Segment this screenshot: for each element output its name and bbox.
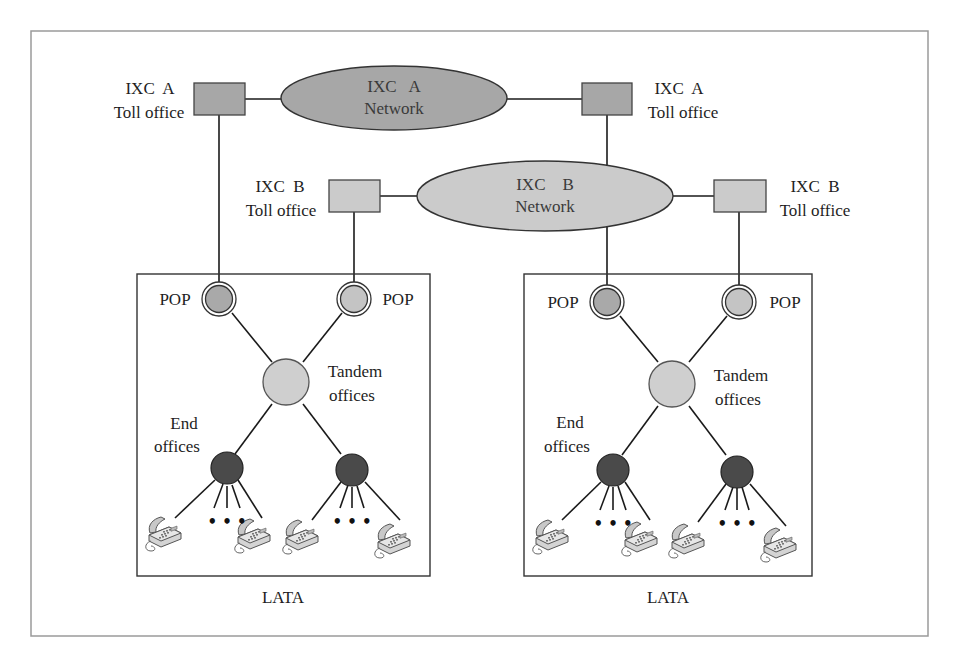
more-phones-ellipsis: • • •: [717, 515, 756, 533]
telephone-icon: [283, 520, 318, 554]
ixc-b-network: IXC B Network: [417, 161, 673, 231]
ixc-a-network-label-1: IXC A: [367, 77, 421, 96]
end-office-node: [211, 452, 243, 484]
pop-node: [590, 285, 624, 319]
ixc-b-network-label-2: Network: [515, 197, 575, 216]
pop-label: POP: [769, 293, 800, 312]
toll-office-label: Toll office: [780, 201, 851, 220]
end-office-label: End: [170, 414, 198, 433]
toll-office-carrier-label: IXC B: [790, 177, 839, 196]
end-office-node: [597, 454, 629, 486]
more-phones-ellipsis: • • •: [332, 513, 371, 531]
pop-node: [722, 285, 756, 319]
more-phones-ellipsis: • • •: [593, 515, 632, 533]
ixc-b-network-label-1: IXC B: [516, 175, 574, 194]
telephone-icon: [669, 524, 704, 558]
tandem-label: offices: [715, 390, 761, 409]
ixc-b-toll-office-left: IXC B Toll office: [246, 177, 380, 220]
pop-node: [337, 282, 371, 316]
lata-right: POP POP Tandem offices End offices • • •…: [524, 274, 812, 607]
ixc-a-toll-office-left: IXC A Toll office: [114, 79, 245, 122]
lata-label: LATA: [262, 588, 305, 607]
toll-office-carrier-label: IXC B: [255, 177, 304, 196]
telephone-icon: [761, 528, 796, 562]
tandem-office-node: [263, 359, 309, 405]
telephone-icon: [146, 517, 181, 551]
pop-node: [202, 282, 236, 316]
tandem-label: offices: [329, 386, 375, 405]
telephone-icon: [533, 520, 568, 554]
tandem-office-node: [649, 361, 695, 407]
ixc-b-toll-office-right: IXC B Toll office: [714, 177, 850, 220]
end-office-node: [721, 456, 753, 488]
toll-office-carrier-label: IXC A: [654, 79, 704, 98]
ixc-a-toll-office-right: IXC A Toll office: [582, 79, 718, 122]
end-office-label: End: [556, 413, 584, 432]
toll-office-label: Toll office: [246, 201, 317, 220]
toll-office-label: Toll office: [114, 103, 185, 122]
tandem-label: Tandem: [328, 362, 383, 381]
network-hierarchy-diagram: IXC A Network IXC B Network IXC A Toll o…: [0, 0, 961, 661]
end-office-label: offices: [544, 437, 590, 456]
end-office-label: offices: [154, 437, 200, 456]
lata-left: POP POP Tandem offices End offices • • •…: [137, 274, 430, 607]
ixc-a-network: IXC A Network: [281, 66, 507, 130]
tandem-label: Tandem: [714, 366, 769, 385]
toll-office-label: Toll office: [648, 103, 719, 122]
more-phones-ellipsis: • • •: [207, 513, 246, 531]
pop-label: POP: [382, 290, 413, 309]
pop-label: POP: [159, 290, 190, 309]
pop-label: POP: [547, 293, 578, 312]
toll-office-carrier-label: IXC A: [125, 79, 175, 98]
end-office-node: [336, 454, 368, 486]
telephone-icon: [375, 524, 410, 558]
ixc-a-network-label-2: Network: [364, 99, 424, 118]
lata-label: LATA: [647, 588, 690, 607]
